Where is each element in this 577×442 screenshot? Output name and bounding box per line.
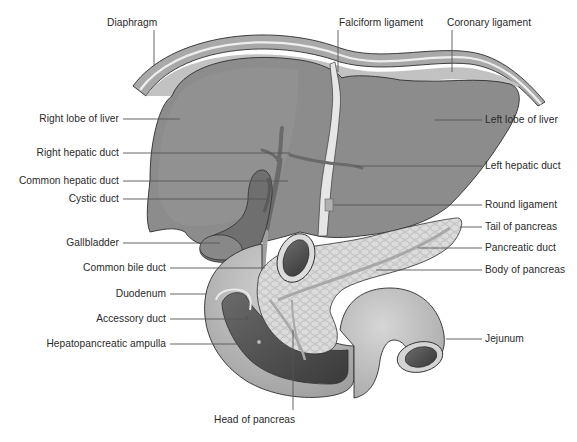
- label-tail-of-pancreas: Tail of pancreas: [485, 221, 557, 233]
- label-hepatopancreatic-ampulla: Hepatopancreatic ampulla: [46, 338, 166, 350]
- label-body-of-pancreas: Body of pancreas: [485, 264, 565, 276]
- anatomy-diagram: Diaphragm Falciform ligament Coronary li…: [0, 0, 577, 442]
- label-round-ligament: Round ligament: [485, 199, 557, 211]
- label-cystic-duct: Cystic duct: [69, 193, 119, 205]
- label-duodenum: Duodenum: [116, 288, 166, 300]
- label-diaphragm: Diaphragm: [107, 17, 157, 29]
- label-right-lobe-of-liver: Right lobe of liver: [39, 113, 119, 125]
- label-head-of-pancreas: Head of pancreas: [214, 414, 295, 426]
- label-jejunum: Jejunum: [485, 333, 524, 345]
- label-left-lobe-of-liver: Left lobe of liver: [485, 114, 558, 126]
- jejunum-shape: [340, 288, 446, 398]
- label-coronary-ligament: Coronary ligament: [447, 17, 531, 29]
- label-gallbladder: Gallbladder: [66, 237, 119, 249]
- label-pancreatic-duct: Pancreatic duct: [485, 242, 556, 254]
- label-right-hepatic-duct: Right hepatic duct: [37, 147, 119, 159]
- label-common-bile-duct: Common bile duct: [83, 262, 166, 274]
- label-accessory-duct: Accessory duct: [96, 313, 166, 325]
- label-left-hepatic-duct: Left hepatic duct: [485, 160, 561, 172]
- label-falciform-ligament: Falciform ligament: [339, 17, 423, 29]
- label-common-hepatic-duct: Common hepatic duct: [19, 175, 119, 187]
- round-ligament-marker: [325, 199, 333, 211]
